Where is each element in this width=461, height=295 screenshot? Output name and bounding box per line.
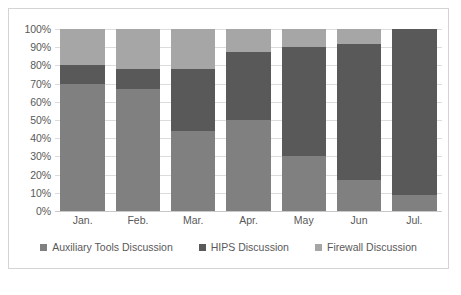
bar-column[interactable]: [171, 29, 216, 211]
legend-swatch-icon: [199, 244, 206, 251]
bar-segment[interactable]: [116, 69, 161, 89]
bar-segment[interactable]: [282, 47, 327, 156]
legend-swatch-icon: [315, 244, 322, 251]
bar-segment[interactable]: [60, 84, 105, 211]
y-tick-label: 50%: [30, 114, 51, 126]
bar-segment[interactable]: [60, 65, 105, 83]
legend-label: Auxiliary Tools Discussion: [52, 241, 173, 253]
x-axis: Jan.Feb.Mar.Apr.MayJunJul.: [55, 214, 442, 226]
x-tick-label: Mar.: [171, 214, 216, 226]
y-tick-label: 90%: [30, 41, 51, 53]
bar-segment[interactable]: [116, 89, 161, 211]
bar-segment[interactable]: [337, 44, 382, 181]
x-tick-label: Jan.: [60, 214, 105, 226]
y-tick-label: 30%: [30, 150, 51, 162]
x-tick-label: Apr.: [226, 214, 271, 226]
y-tick-label: 20%: [30, 169, 51, 181]
y-tick-label: 60%: [30, 96, 51, 108]
bars-layer: [55, 29, 442, 211]
bar-segment[interactable]: [392, 195, 437, 211]
stacked-bar-chart: 0%10%20%30%40%50%60%70%80%90%100% Jan.Fe…: [8, 8, 449, 269]
bar-segment[interactable]: [226, 29, 271, 52]
bar-segment[interactable]: [337, 29, 382, 44]
x-tick-label: May: [282, 214, 327, 226]
legend-swatch-icon: [40, 244, 47, 251]
bar-segment[interactable]: [171, 69, 216, 131]
bar-segment[interactable]: [282, 29, 327, 47]
bar-column[interactable]: [282, 29, 327, 211]
y-tick-label: 80%: [30, 59, 51, 71]
y-tick-label: 10%: [30, 187, 51, 199]
bar-column[interactable]: [226, 29, 271, 211]
y-axis: 0%10%20%30%40%50%60%70%80%90%100%: [15, 29, 51, 211]
x-tick-label: Feb.: [116, 214, 161, 226]
bar-segment[interactable]: [226, 52, 271, 120]
bar-segment[interactable]: [392, 29, 437, 195]
legend-label: HIPS Discussion: [211, 241, 289, 253]
bar-segment[interactable]: [116, 29, 161, 69]
y-tick-label: 40%: [30, 132, 51, 144]
bar-column[interactable]: [116, 29, 161, 211]
legend-label: Firewall Discussion: [327, 241, 417, 253]
y-tick-label: 70%: [30, 78, 51, 90]
bar-column[interactable]: [392, 29, 437, 211]
x-tick-label: Jul.: [392, 214, 437, 226]
bar-segment[interactable]: [171, 29, 216, 69]
plot-area: 0%10%20%30%40%50%60%70%80%90%100%: [9, 9, 448, 219]
legend-item[interactable]: Firewall Discussion: [315, 241, 417, 253]
bar-segment[interactable]: [226, 120, 271, 211]
gridline: [55, 211, 442, 212]
chart-legend: Auxiliary Tools DiscussionHIPS Discussio…: [9, 241, 448, 253]
legend-item[interactable]: Auxiliary Tools Discussion: [40, 241, 173, 253]
bar-segment[interactable]: [171, 131, 216, 211]
bar-column[interactable]: [337, 29, 382, 211]
bar-segment[interactable]: [60, 29, 105, 65]
y-tick-label: 0%: [36, 205, 51, 217]
legend-item[interactable]: HIPS Discussion: [199, 241, 289, 253]
bar-segment[interactable]: [337, 180, 382, 211]
y-tick-label: 100%: [25, 23, 51, 35]
bar-column[interactable]: [60, 29, 105, 211]
x-tick-label: Jun: [337, 214, 382, 226]
bar-segment[interactable]: [282, 156, 327, 211]
